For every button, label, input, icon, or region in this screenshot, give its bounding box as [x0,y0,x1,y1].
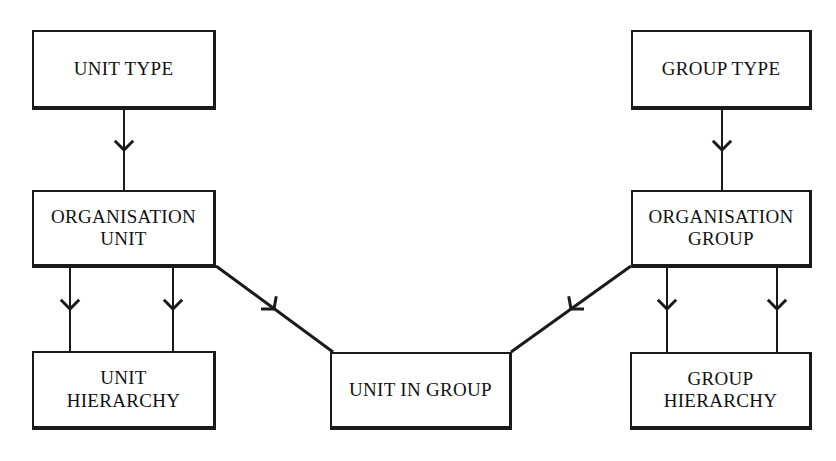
entity-label-organisation-unit: ORGANISATION UNIT [51,206,196,251]
chevron-arm-1-organisation-unit-to-unit-hierarchy-left [70,300,79,309]
connector-unit-type-to-organisation-unit [115,110,133,190]
chevron-arm-1-organisation-unit-to-unit-in-group [274,296,276,309]
entity-label-organisation-group: ORGANISATION GROUP [648,206,793,251]
entity-box-unit-in-group[interactable]: UNIT IN GROUP [330,352,512,430]
entity-box-unit-type[interactable]: UNIT TYPE [32,30,216,110]
entity-box-group-type[interactable]: GROUP TYPE [631,30,812,110]
entity-label-group-type: GROUP TYPE [662,58,781,80]
chevron-arm-1-unit-type-to-organisation-unit [124,141,133,150]
connector-organisation-unit-to-unit-hierarchy-right [164,268,182,351]
entity-label-unit-hierarchy: UNIT HIERARCHY [67,367,181,412]
chevron-arm-1-organisation-group-to-group-hierarchy-right [777,300,786,309]
entity-label-group-hierarchy: GROUP HIERARCHY [664,368,778,413]
entity-box-organisation-group[interactable]: ORGANISATION GROUP [631,190,812,268]
chevron-arm-1-organisation-group-to-unit-in-group [569,296,571,309]
chevron-arm-1-group-type-to-organisation-group [722,141,731,150]
chevron-arm-0-organisation-group-to-group-hierarchy-left [658,300,667,309]
chevron-arm-0-organisation-unit-to-unit-hierarchy-left [61,300,70,309]
connector-organisation-unit-to-unit-in-group [216,266,333,352]
connector-group-type-to-organisation-group [713,110,731,190]
chevron-arm-0-organisation-unit-to-unit-hierarchy-right [164,300,173,309]
connector-organisation-group-to-group-hierarchy-left [658,268,676,352]
entity-diagram-canvas: UNIT TYPE ORGANISATION UNIT UNIT HIERARC… [0,0,836,461]
chevron-arm-0-unit-type-to-organisation-unit [115,141,124,150]
entity-label-unit-in-group: UNIT IN GROUP [349,379,492,401]
entity-box-organisation-unit[interactable]: ORGANISATION UNIT [32,190,216,268]
chevron-arm-1-organisation-group-to-group-hierarchy-left [667,300,676,309]
chevron-arm-1-organisation-unit-to-unit-hierarchy-right [173,300,182,309]
connector-organisation-group-to-unit-in-group [511,266,631,352]
entity-box-unit-hierarchy[interactable]: UNIT HIERARCHY [32,351,216,430]
connector-organisation-unit-to-unit-hierarchy-left [61,268,79,351]
entity-label-unit-type: UNIT TYPE [74,58,174,80]
chevron-arm-0-organisation-group-to-group-hierarchy-right [768,300,777,309]
chevron-arm-0-group-type-to-organisation-group [713,141,722,150]
entity-box-group-hierarchy[interactable]: GROUP HIERARCHY [630,352,812,430]
connector-organisation-group-to-group-hierarchy-right [768,268,786,352]
